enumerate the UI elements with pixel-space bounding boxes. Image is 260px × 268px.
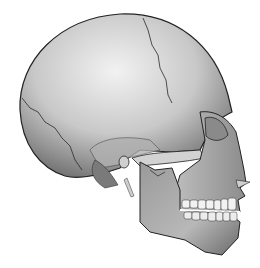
skull-illustration [0, 0, 260, 268]
styloid-process [124, 178, 134, 197]
ear-canal [119, 156, 129, 168]
nasal-spine [236, 180, 250, 188]
